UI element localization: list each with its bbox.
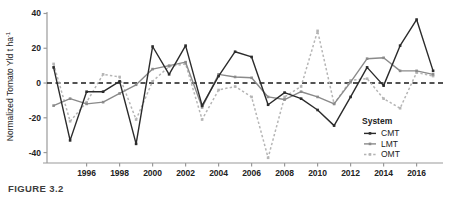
data-point-cmt bbox=[349, 96, 352, 99]
data-point-cmt bbox=[118, 80, 121, 83]
data-point-omt bbox=[151, 80, 154, 83]
x-axis-tick-label: 2014 bbox=[374, 168, 393, 178]
data-point-cmt bbox=[432, 70, 435, 73]
data-point-lmt bbox=[432, 73, 435, 76]
data-point-lmt bbox=[333, 103, 336, 106]
data-point-cmt bbox=[415, 18, 418, 21]
y-axis-tick-label: 0 bbox=[36, 78, 41, 88]
data-point-cmt bbox=[85, 90, 88, 93]
x-axis-tick-label: 2006 bbox=[242, 168, 261, 178]
data-point-omt bbox=[283, 96, 286, 99]
data-point-omt bbox=[234, 85, 237, 88]
x-axis-tick-label: 2004 bbox=[209, 168, 228, 178]
x-axis-tick-label: 2016 bbox=[407, 168, 426, 178]
y-axis-tick-label: 40 bbox=[32, 8, 42, 18]
data-point-lmt bbox=[300, 90, 303, 93]
x-axis-tick-label: 2012 bbox=[341, 168, 360, 178]
x-axis-tick-label: 2002 bbox=[176, 168, 195, 178]
y-axis-tick-label: -20 bbox=[29, 113, 42, 123]
data-point-cmt bbox=[184, 44, 187, 47]
data-point-omt bbox=[267, 156, 270, 159]
legend-label-omt[interactable]: OMT bbox=[381, 149, 400, 159]
data-point-cmt bbox=[250, 56, 253, 59]
data-point-lmt bbox=[184, 61, 187, 64]
figure-caption: FIGURE 3.2 bbox=[8, 183, 64, 194]
data-point-cmt bbox=[151, 45, 154, 48]
data-point-cmt bbox=[366, 66, 369, 69]
data-point-cmt bbox=[234, 50, 237, 53]
data-point-cmt bbox=[52, 66, 55, 69]
series-line-omt bbox=[54, 31, 434, 158]
legend-marker-lmt bbox=[369, 143, 372, 146]
data-point-cmt bbox=[201, 104, 204, 107]
data-point-cmt bbox=[399, 44, 402, 47]
data-point-lmt bbox=[69, 97, 72, 100]
data-point-lmt bbox=[349, 81, 352, 84]
legend-label-lmt[interactable]: LMT bbox=[381, 139, 398, 149]
data-point-omt bbox=[217, 89, 220, 92]
data-point-lmt bbox=[283, 98, 286, 101]
legend-marker-omt bbox=[369, 153, 372, 156]
data-point-lmt bbox=[102, 101, 105, 104]
data-point-lmt bbox=[399, 70, 402, 73]
data-point-cmt bbox=[168, 73, 171, 76]
data-point-omt bbox=[69, 120, 72, 123]
data-point-cmt bbox=[102, 90, 105, 93]
data-point-lmt bbox=[250, 77, 253, 80]
data-point-cmt bbox=[283, 91, 286, 94]
legend-label-cmt[interactable]: CMT bbox=[381, 128, 399, 138]
x-axis-tick-label: 1996 bbox=[77, 168, 96, 178]
data-point-cmt bbox=[69, 139, 72, 142]
y-axis-title: Normalized Tomato Yld t ha-1 bbox=[5, 31, 15, 141]
figure-container: -40-200204019961998200020022004200620082… bbox=[0, 0, 453, 201]
legend-marker-cmt bbox=[369, 132, 372, 135]
data-point-lmt bbox=[234, 76, 237, 79]
data-point-omt bbox=[118, 76, 121, 79]
y-axis-tick-label: -40 bbox=[29, 148, 42, 158]
data-point-lmt bbox=[267, 96, 270, 99]
data-point-cmt bbox=[316, 109, 319, 112]
svg-text:Normalized Tomato Yld t ha-1: Normalized Tomato Yld t ha-1 bbox=[5, 31, 15, 141]
data-point-cmt bbox=[382, 84, 385, 87]
data-point-lmt bbox=[52, 104, 55, 107]
data-point-lmt bbox=[168, 64, 171, 67]
x-axis-tick-label: 2010 bbox=[308, 168, 327, 178]
data-point-lmt bbox=[135, 83, 138, 86]
line-chart: -40-200204019961998200020022004200620082… bbox=[0, 0, 453, 201]
data-point-lmt bbox=[415, 70, 418, 73]
data-point-lmt bbox=[151, 68, 154, 71]
x-axis-tick-label: 2008 bbox=[275, 168, 294, 178]
data-point-lmt bbox=[118, 92, 121, 95]
data-point-cmt bbox=[267, 103, 270, 106]
data-point-omt bbox=[135, 118, 138, 121]
plot-area: -40-200204019961998200020022004200620082… bbox=[5, 8, 443, 178]
data-point-cmt bbox=[333, 124, 336, 127]
data-point-omt bbox=[52, 63, 55, 66]
data-point-omt bbox=[300, 85, 303, 88]
data-point-omt bbox=[316, 30, 319, 33]
data-point-omt bbox=[201, 118, 204, 121]
data-point-omt bbox=[399, 107, 402, 110]
data-point-lmt bbox=[382, 57, 385, 60]
data-point-omt bbox=[382, 97, 385, 100]
data-point-cmt bbox=[217, 75, 220, 78]
data-point-omt bbox=[102, 73, 105, 76]
data-point-cmt bbox=[300, 97, 303, 100]
data-point-lmt bbox=[366, 57, 369, 60]
data-point-lmt bbox=[316, 96, 319, 99]
data-point-lmt bbox=[85, 103, 88, 106]
data-point-cmt bbox=[135, 143, 138, 146]
legend-title: System bbox=[362, 116, 393, 126]
data-point-omt bbox=[250, 96, 253, 99]
data-point-omt bbox=[366, 77, 369, 80]
x-axis-tick-label: 1998 bbox=[110, 168, 129, 178]
y-axis-tick-label: 20 bbox=[32, 43, 42, 53]
x-axis-tick-label: 2000 bbox=[143, 168, 162, 178]
